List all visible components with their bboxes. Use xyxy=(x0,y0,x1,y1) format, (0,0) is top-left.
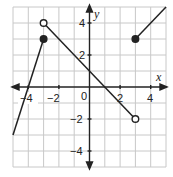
y-axis-up-arrow-icon xyxy=(87,5,93,12)
coordinate-plane: −4 −2 0 2 4 4 2 −2 −4 y x xyxy=(0,0,173,177)
y-tick-label: 2 xyxy=(79,49,85,61)
x-axis-label: x xyxy=(155,70,162,84)
closed-point-icon xyxy=(40,36,47,43)
y-tick-label: −2 xyxy=(70,113,83,125)
x-tick-label: −2 xyxy=(47,92,60,104)
x-tick-label: 4 xyxy=(147,92,153,104)
y-tick-label: −4 xyxy=(70,145,83,157)
origin-label: 0 xyxy=(81,90,87,102)
y-axis-down-arrow-icon xyxy=(87,162,93,169)
open-point-icon xyxy=(40,20,47,27)
closed-point-icon xyxy=(132,36,139,43)
y-tick-label: 4 xyxy=(79,17,85,29)
open-point-icon xyxy=(132,116,139,123)
y-axis-label: y xyxy=(93,7,100,21)
